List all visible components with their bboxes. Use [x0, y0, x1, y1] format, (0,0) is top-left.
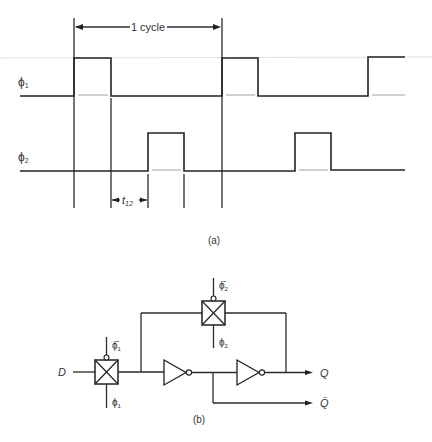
inverter-2-bubble — [259, 370, 264, 375]
cycle-label: 1 cycle — [131, 21, 165, 33]
latch-circuit: D ϕ̄1 ϕ1 ϕ̄2 ϕ2 — [58, 278, 329, 425]
caption-b: (b) — [193, 414, 205, 425]
tg1-inversion-bubble — [104, 355, 109, 360]
t12-arrowhead-left — [112, 198, 119, 203]
phi1-waveform — [20, 57, 405, 96]
t12-label: t12 — [122, 194, 133, 207]
cycle-arrowhead-right — [213, 24, 221, 30]
inverter-1-bubble — [186, 370, 191, 375]
tg1-phi1bar-label: ϕ̄1 — [112, 340, 122, 352]
tg2-inversion-bubble — [211, 296, 216, 301]
qbar-arrowhead — [305, 401, 313, 406]
t12-arrowhead-right — [140, 198, 147, 203]
output-q-label: Q — [320, 367, 329, 379]
phi2-label: ϕ2 — [18, 150, 29, 164]
tg1-phi1-label: ϕ1 — [112, 397, 122, 409]
cycle-arrowhead-left — [75, 24, 83, 30]
caption-a: (a) — [208, 235, 220, 246]
tg2-phi2-label: ϕ2 — [219, 337, 229, 349]
timing-diagram: 1 cycle ϕ1 ϕ2 t12 (a) — [18, 18, 405, 246]
q-arrowhead — [305, 370, 313, 375]
tg2-phi2bar-label: ϕ̄2 — [219, 280, 229, 292]
inverter-1 — [164, 360, 192, 385]
input-d-label: D — [58, 366, 66, 378]
phi2-waveform — [20, 133, 405, 171]
inverter-2 — [237, 360, 265, 385]
figure-canvas: 1 cycle ϕ1 ϕ2 t12 (a) D — [0, 0, 432, 442]
output-qbar-label: Q̄ — [320, 397, 329, 409]
phi1-label: ϕ1 — [18, 75, 29, 89]
